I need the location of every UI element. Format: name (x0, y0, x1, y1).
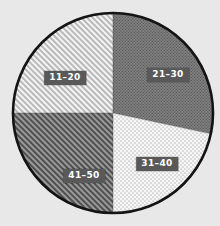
pie-slice-41-50[interactable] (13, 113, 113, 213)
pie-chart: 11–20 21–30 31–40 41–50 (0, 0, 220, 226)
pie-label-41-50: 41–50 (63, 169, 105, 183)
pie-chart-canvas (0, 0, 220, 226)
pie-slice-11-20[interactable] (13, 13, 113, 113)
pie-label-31-40: 31–40 (136, 157, 178, 171)
pie-label-21-30: 21–30 (147, 68, 189, 82)
pie-label-11-20: 11–20 (44, 71, 86, 85)
